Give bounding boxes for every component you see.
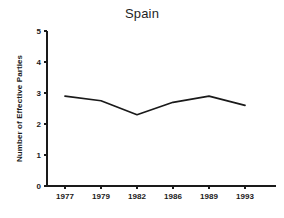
chart-figure: Spain Number of Effective Parties 012345… <box>0 0 284 218</box>
x-axis-tick-label: 1989 <box>200 192 218 201</box>
x-axis-tick-label: 1993 <box>236 192 254 201</box>
x-axis-tick-label: 1979 <box>92 192 110 201</box>
y-axis-tick-labels: 012345 <box>37 27 42 191</box>
y-axis-tick-label: 1 <box>37 151 42 160</box>
x-axis-tick-label: 1986 <box>164 192 182 201</box>
y-axis-tick-label: 4 <box>37 58 42 67</box>
y-axis-tick-label: 5 <box>37 27 42 36</box>
y-axis-tick-label: 3 <box>37 89 42 98</box>
x-axis-tick-labels: 197719791982198619891993 <box>56 192 254 201</box>
x-axis-tick-label: 1977 <box>56 192 74 201</box>
x-axis-tick-label: 1982 <box>128 192 146 201</box>
y-axis-tick-label: 2 <box>37 120 42 129</box>
plot-area: 012345 197719791982198619891993 <box>0 0 284 218</box>
data-series-line <box>65 96 245 115</box>
y-axis-tick-label: 0 <box>37 182 42 191</box>
